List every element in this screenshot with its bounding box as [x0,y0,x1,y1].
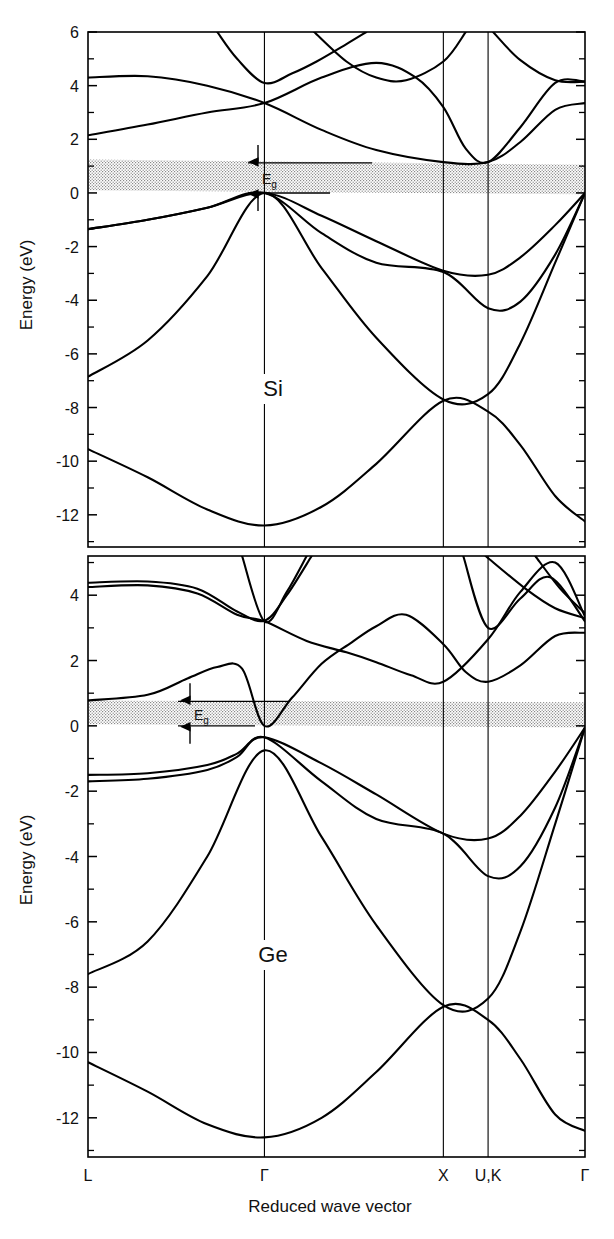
x-tick-label-4: Γ [581,1167,590,1184]
y-tick-label: -8 [65,400,79,417]
band-curve-conduction-band-6 [486,556,585,618]
y-tick-label: 4 [70,78,79,95]
panel-si: 6420-2-4-6-8-10-12SiEg [56,24,585,547]
gap-label-g: g [271,179,277,190]
y-tick-label: -10 [56,453,79,470]
y-tick-label: -4 [65,292,79,309]
x-tick-label-1: Γ [260,1167,269,1184]
gap-label-e: E [262,171,271,187]
band-curve-conduction-band-3 [88,556,312,621]
y-tick-label: -6 [65,346,79,363]
gap-label-g: g [203,715,209,726]
band-curve-valence-band-3-split-off- [88,193,585,404]
band-curve-conduction-band-1 [88,76,585,164]
bands-group [88,556,585,1138]
band-curve-conduction-band-5 [493,32,585,82]
band-gap-shading [88,700,585,727]
gap-label-e: E [194,707,203,723]
figure-root: 6420-2-4-6-8-10-12SiEg 420-2-4-6-8-10-12… [0,0,614,1239]
y-tick-label: 4 [70,587,79,604]
plot-frame [88,556,585,1157]
band-curve-valence-band-2-light-hole- [88,727,585,878]
band-curve-conduction-band-5 [463,556,585,629]
y-axis-title-ge: Energy (eV) [17,815,36,906]
y-tick-label: 0 [70,185,79,202]
bands-group [88,32,585,526]
material-label-si: Si [263,376,283,401]
band-curve-valence-band-1-heavy-hole- [88,193,585,276]
band-curve-valence-band-2-light-hole- [88,192,585,311]
band-curve-valence-band-4-lowest- [88,398,585,526]
y-tick-label: -6 [65,914,79,931]
y-axis-title-si: Energy (eV) [17,240,36,331]
y-tick-label: 2 [70,131,79,148]
y-tick-label: -2 [65,239,79,256]
band-curve-valence-band-1-heavy-hole- [88,727,585,840]
panel-ge: 420-2-4-6-8-10-12GeEgLΓXU,KΓ [56,556,590,1184]
y-tick-label: -12 [56,507,79,524]
x-tick-label-3: U,K [475,1167,502,1184]
y-tick-label: -4 [65,849,79,866]
band-gap-shading [88,159,585,194]
x-axis-title: Reduced wave vector [248,1197,412,1216]
band-curve-conduction-band-2 [88,562,585,684]
band-curve-valence-band-4-lowest- [88,1004,585,1138]
y-tick-label: 6 [70,24,79,41]
x-tick-label-0: L [84,1167,93,1184]
band-curve-valence-band-3-split-off- [88,727,585,1011]
y-tick-label: -12 [56,1110,79,1127]
band-structure-figure: 6420-2-4-6-8-10-12SiEg 420-2-4-6-8-10-12… [0,0,614,1239]
x-tick-label-2: X [438,1167,449,1184]
y-tick-label: -2 [65,783,79,800]
band-curve-conduction-band-3 [217,32,366,83]
y-tick-label: -8 [65,979,79,996]
y-tick-label: 2 [70,653,79,670]
y-tick-label: -10 [56,1044,79,1061]
y-tick-label: 0 [70,718,79,735]
material-label-ge: Ge [258,942,287,967]
